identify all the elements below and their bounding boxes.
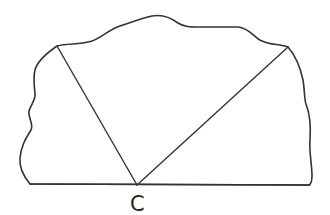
irregular-outline: [20, 15, 312, 185]
geometry-diagram: C: [0, 0, 330, 215]
segment-c-to-upper-left: [57, 46, 137, 185]
vertex-label-c: C: [130, 192, 145, 215]
segment-c-to-upper-right: [137, 47, 288, 185]
